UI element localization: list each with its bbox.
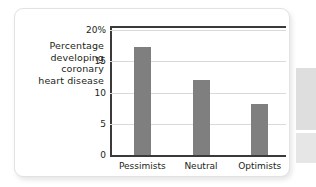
bar-chart: Percentage developing coronary heart dis… (0, 0, 316, 187)
bar-optimists (251, 104, 268, 155)
y-axis-title: Percentage developing coronary heart dis… (18, 40, 104, 86)
x-tick-label-optimists: Optimists (238, 161, 281, 171)
bar-neutral (193, 80, 210, 155)
y-axis-title-line-4: heart disease (18, 75, 104, 87)
y-tick-label-15: 15 (95, 56, 106, 66)
y-tick-label-20: 20% (86, 25, 106, 35)
bar-pessimists (134, 47, 151, 155)
y-tick-label-5: 5 (100, 119, 106, 129)
x-axis-line (110, 155, 286, 157)
y-axis-title-line-2: developing (18, 52, 104, 64)
plot-area: 05101520% PessimistsNeutralOptimists (110, 30, 286, 155)
x-tick-label-pessimists: Pessimists (119, 161, 166, 171)
y-tick-label-10: 10 (95, 88, 106, 98)
y-axis-title-line-3: coronary (18, 63, 104, 75)
gridline-20 (110, 30, 286, 31)
y-tick-label-0: 0 (100, 150, 106, 160)
x-tick-label-neutral: Neutral (184, 161, 217, 171)
y-axis-line (110, 26, 112, 155)
y-axis-title-line-1: Percentage (18, 40, 104, 52)
plot-top-rule (110, 26, 286, 28)
